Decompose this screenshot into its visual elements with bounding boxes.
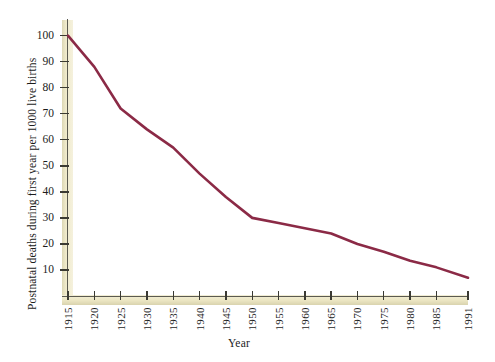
chart-container: Postnatal deaths during first year per 1… — [0, 0, 495, 362]
plot-svg — [0, 0, 495, 362]
x-axis-title: Year — [228, 337, 250, 349]
data-series-line — [68, 36, 468, 278]
